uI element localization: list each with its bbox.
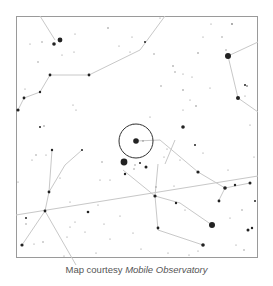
star xyxy=(202,36,203,37)
constellation-line xyxy=(180,203,212,225)
star xyxy=(107,27,109,29)
star xyxy=(59,177,60,178)
star xyxy=(97,204,98,205)
star xyxy=(182,89,184,91)
constellation-line xyxy=(50,16,165,75)
star xyxy=(247,229,250,232)
star xyxy=(41,41,42,42)
star xyxy=(29,43,30,44)
caption-prefix: Map courtesy xyxy=(65,264,125,275)
constellation-line xyxy=(225,183,250,188)
star xyxy=(194,144,196,146)
star xyxy=(253,156,254,157)
map-caption: Map courtesy Mobile Observatory xyxy=(0,264,273,275)
star xyxy=(191,76,192,77)
star xyxy=(251,227,253,229)
star xyxy=(188,254,189,255)
star xyxy=(23,97,26,100)
star xyxy=(17,181,18,182)
star xyxy=(182,73,183,74)
star xyxy=(66,236,67,237)
star xyxy=(249,182,252,185)
star xyxy=(69,201,70,202)
star xyxy=(244,95,245,96)
caption-source: Mobile Observatory xyxy=(125,264,207,275)
star xyxy=(225,49,226,50)
star xyxy=(103,223,104,224)
star xyxy=(61,54,62,55)
star xyxy=(74,33,75,34)
constellation-line xyxy=(18,75,50,110)
star xyxy=(109,238,110,239)
constellation-line xyxy=(155,164,180,203)
star xyxy=(167,252,168,253)
star xyxy=(52,42,56,46)
star xyxy=(175,202,177,204)
star xyxy=(16,108,19,111)
star xyxy=(241,209,242,210)
star xyxy=(172,65,174,67)
constellation-line xyxy=(40,16,55,40)
star xyxy=(201,243,205,247)
star xyxy=(243,249,244,250)
constellation-line xyxy=(155,196,203,245)
star xyxy=(131,36,132,37)
star xyxy=(244,84,246,86)
star xyxy=(35,154,36,155)
star xyxy=(109,179,110,180)
star xyxy=(139,162,141,164)
star xyxy=(20,243,23,246)
star xyxy=(209,222,215,228)
star xyxy=(31,159,32,160)
star xyxy=(197,52,199,54)
star xyxy=(231,23,233,25)
star xyxy=(88,74,91,77)
star xyxy=(145,166,148,169)
star xyxy=(179,159,180,160)
star xyxy=(221,36,222,37)
star xyxy=(163,156,164,157)
star xyxy=(174,71,175,72)
star xyxy=(209,87,210,88)
star xyxy=(132,232,133,233)
star xyxy=(181,125,185,129)
star xyxy=(95,252,96,253)
star xyxy=(235,244,236,245)
star xyxy=(74,221,75,222)
star xyxy=(160,85,161,86)
star xyxy=(133,138,139,144)
star xyxy=(33,243,34,244)
star xyxy=(157,227,160,230)
star xyxy=(249,124,250,125)
star xyxy=(229,217,230,218)
star xyxy=(37,61,38,62)
star xyxy=(58,38,63,43)
constellation-line xyxy=(136,140,225,188)
star xyxy=(144,41,146,43)
star xyxy=(184,209,185,210)
star xyxy=(49,74,52,77)
star xyxy=(81,149,83,151)
star xyxy=(84,231,85,232)
star xyxy=(134,164,135,165)
constellation-line xyxy=(228,42,258,56)
star xyxy=(189,99,190,100)
star xyxy=(149,116,150,117)
star xyxy=(140,248,141,249)
star xyxy=(99,179,100,180)
star xyxy=(153,194,156,197)
star xyxy=(173,185,174,186)
star xyxy=(73,51,74,52)
constellation-line xyxy=(45,211,76,265)
star xyxy=(42,241,43,242)
star xyxy=(121,159,128,166)
star xyxy=(44,210,47,213)
star xyxy=(63,255,64,256)
star xyxy=(236,96,240,100)
star xyxy=(223,186,227,190)
star xyxy=(234,184,236,186)
star xyxy=(124,173,126,175)
star xyxy=(48,191,51,194)
constellation-line xyxy=(49,150,82,192)
star xyxy=(119,215,120,216)
